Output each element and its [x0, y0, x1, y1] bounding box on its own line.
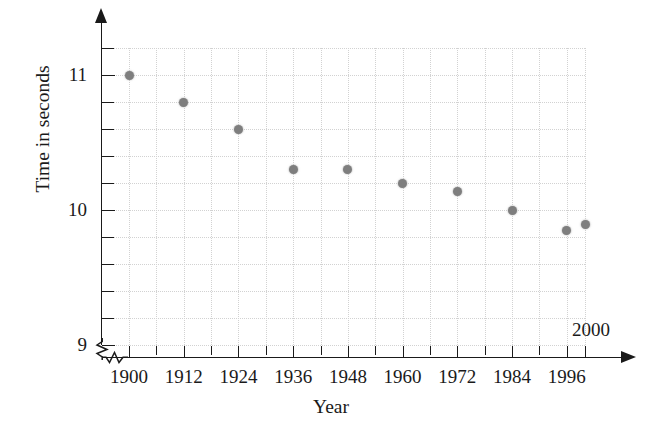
gridline-vertical [266, 48, 267, 345]
x-axis-minor-tick [430, 346, 431, 355]
y-axis-minor-tick [102, 48, 114, 49]
x-axis-minor-tick [485, 346, 486, 355]
gridline-vertical [211, 48, 212, 345]
gridline-vertical [457, 48, 458, 345]
x-axis-minor-tick [211, 346, 212, 355]
x-axis-major-tick [512, 346, 513, 357]
scatter-plot-figure: 11109 Time in seconds 190019121924193619… [0, 0, 652, 442]
gridline-vertical [485, 48, 486, 345]
gridline-vertical [585, 48, 586, 345]
y-axis-major-tick [102, 75, 115, 76]
y-axis-minor-tick [102, 129, 114, 130]
gridline-vertical [348, 48, 349, 345]
gridline-vertical [430, 48, 431, 345]
data-point [179, 98, 188, 107]
data-point [343, 165, 352, 174]
x-axis-minor-tick [156, 346, 157, 355]
data-point [398, 179, 407, 188]
x-axis-major-tick [184, 346, 185, 357]
x-axis-arrowhead [621, 351, 636, 363]
y-axis-minor-tick [102, 318, 114, 319]
data-point [508, 206, 517, 215]
data-point [125, 71, 134, 80]
y-axis-tick-label: 9 [47, 335, 87, 354]
data-point [289, 165, 298, 174]
x-axis-break-icon [102, 348, 128, 366]
x-axis-major-tick [238, 346, 239, 357]
x-axis-major-tick [403, 346, 404, 357]
gridline-vertical [403, 48, 404, 345]
data-point [581, 220, 590, 229]
x-axis-minor-tick [375, 346, 376, 355]
x-axis-major-tick [567, 346, 568, 357]
y-axis-minor-tick [102, 183, 114, 184]
x-axis-major-tick [348, 346, 349, 357]
x-axis-tick-label: 1996 [532, 367, 602, 386]
x-axis-line [102, 357, 623, 358]
gridline-vertical [321, 48, 322, 345]
x-axis-major-tick [293, 346, 294, 357]
gridline-vertical [512, 48, 513, 345]
y-axis-arrowhead [95, 8, 107, 23]
y-axis-major-tick [102, 210, 115, 211]
x-axis-minor-tick [539, 346, 540, 355]
data-point [234, 125, 243, 134]
data-point [562, 226, 571, 235]
y-axis-title: Time in seconds [32, 29, 54, 229]
gridline-vertical [184, 48, 185, 345]
gridline-vertical [293, 48, 294, 345]
x-axis-major-tick [585, 346, 586, 357]
y-axis-minor-tick [102, 291, 114, 292]
gridline-vertical [156, 48, 157, 345]
gridline-vertical [375, 48, 376, 345]
x-axis-tick-label: 2000 [556, 320, 626, 339]
y-axis-minor-tick [102, 237, 114, 238]
y-axis-minor-tick [102, 264, 114, 265]
x-axis-minor-tick [321, 346, 322, 355]
x-axis-minor-tick [266, 346, 267, 355]
y-axis-minor-tick [102, 102, 114, 103]
gridline-vertical [567, 48, 568, 345]
gridline-vertical [238, 48, 239, 345]
x-axis-major-tick [129, 346, 130, 357]
gridline-vertical [539, 48, 540, 345]
x-axis-title: Year [296, 396, 366, 418]
y-axis-minor-tick [102, 156, 114, 157]
data-point [453, 187, 462, 196]
plot-area [102, 48, 585, 345]
x-axis-major-tick [457, 346, 458, 357]
gridline-vertical [129, 48, 130, 345]
